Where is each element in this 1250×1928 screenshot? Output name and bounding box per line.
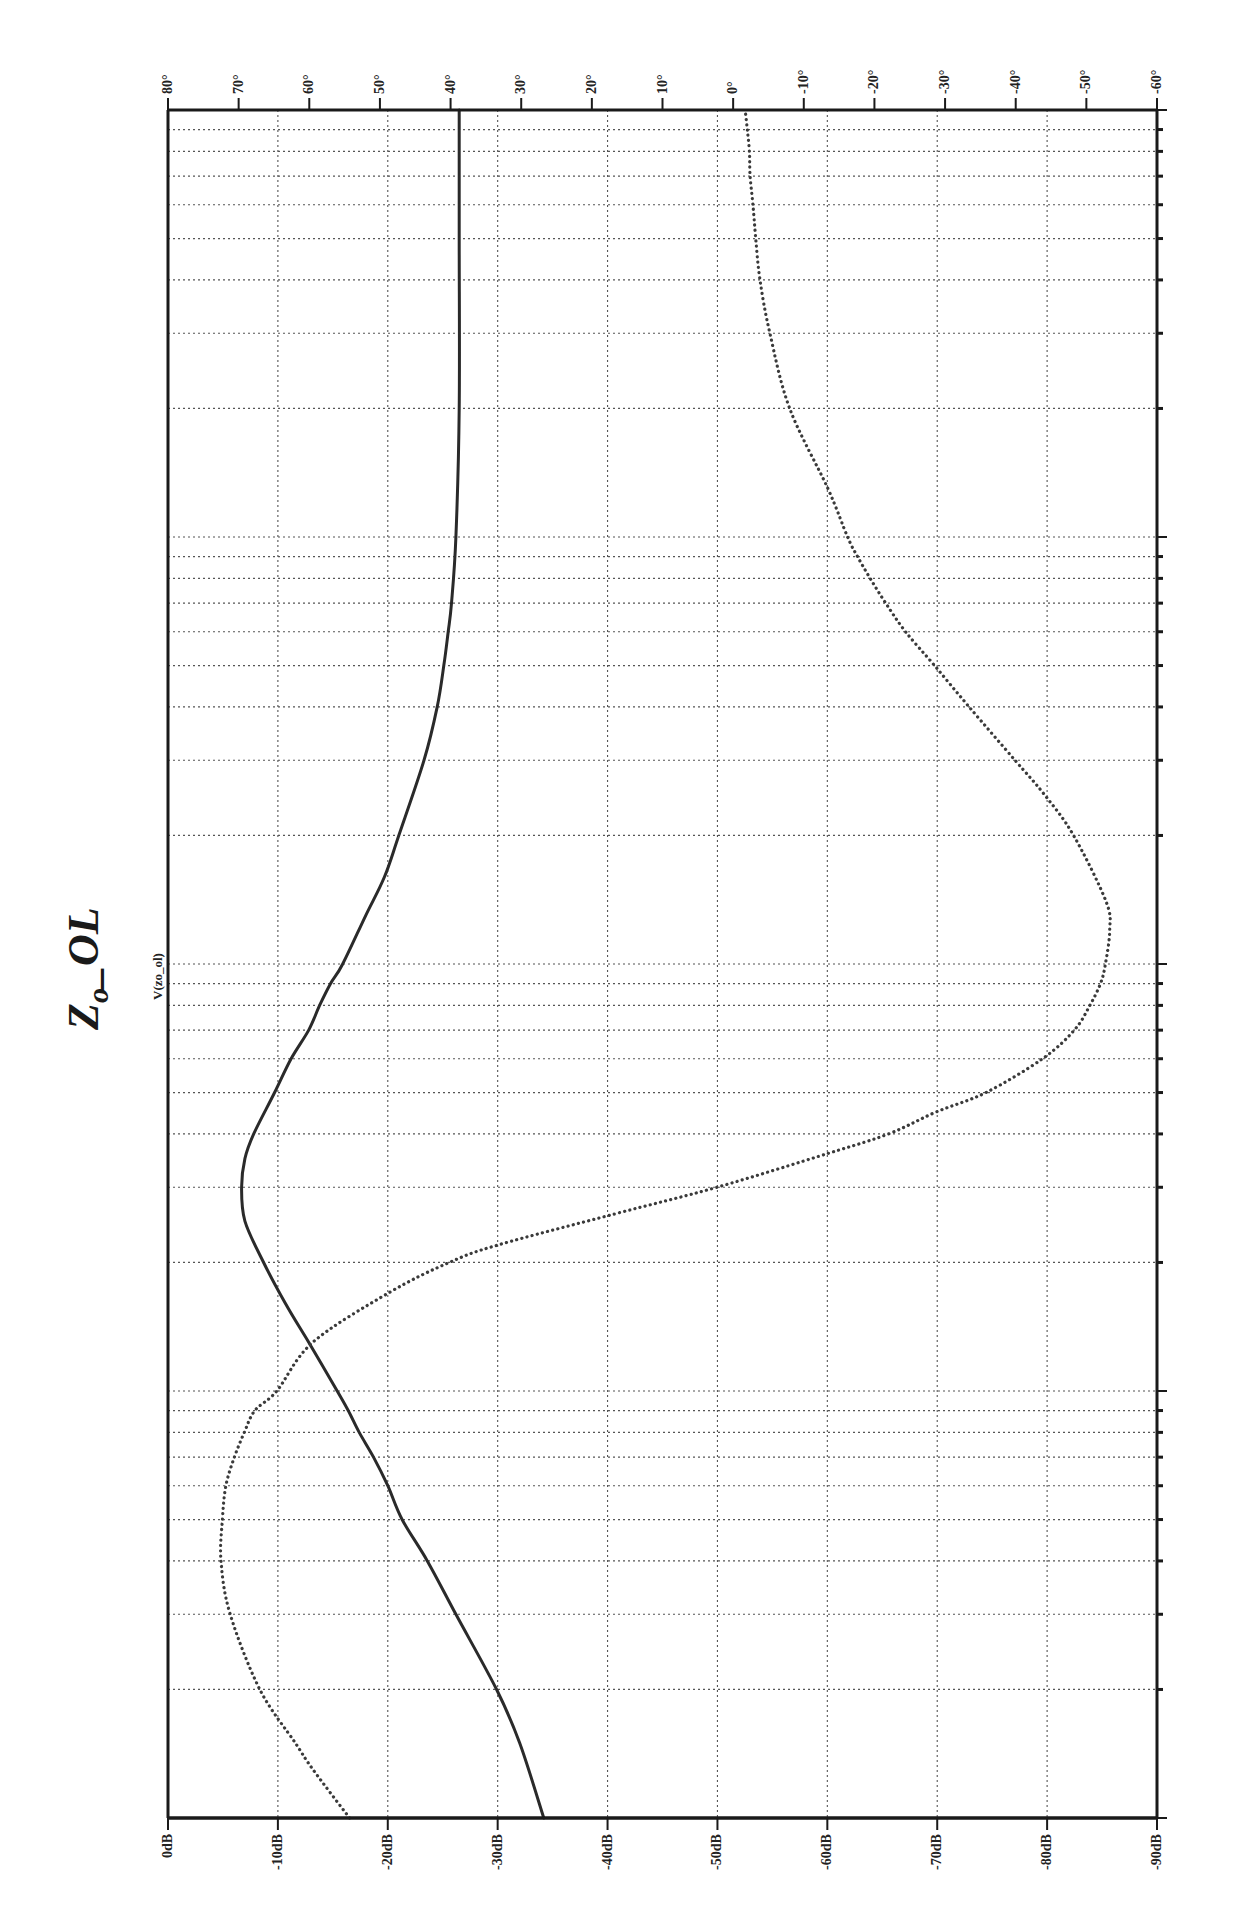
phase-tick-label: -10° bbox=[796, 70, 812, 94]
phase-tick-label: 0° bbox=[725, 81, 741, 94]
magnitude-tick-label: -20dB bbox=[380, 1834, 396, 1870]
phase-tick-label: -40° bbox=[1008, 70, 1024, 94]
phase-tick-label: 40° bbox=[443, 74, 459, 94]
bode-plot: Zo_OL V(zo_ol) 80°70°60°50°40°30°20°10°0… bbox=[0, 0, 1250, 1928]
magnitude-tick-label: -60dB bbox=[819, 1834, 835, 1870]
magnitude-tick-label: -80dB bbox=[1039, 1834, 1055, 1870]
phase-tick-label: 10° bbox=[655, 74, 671, 94]
phase-tick-label: -30° bbox=[937, 70, 953, 94]
magnitude-tick-label: -40dB bbox=[600, 1834, 616, 1870]
magnitude-tick-label: -30dB bbox=[490, 1834, 506, 1870]
magnitude-tick-label: -10dB bbox=[270, 1834, 286, 1870]
magnitude-tick-label: -70dB bbox=[929, 1834, 945, 1870]
phase-tick-label: -60° bbox=[1149, 70, 1165, 94]
magnitude-tick-label: 0dB bbox=[160, 1834, 176, 1858]
phase-tick-label: 50° bbox=[372, 74, 388, 94]
magnitude-tick-label: -50dB bbox=[709, 1834, 725, 1870]
phase-tick-label: -50° bbox=[1078, 70, 1094, 94]
phase-tick-label: 80° bbox=[160, 74, 176, 94]
phase-tick-label: 70° bbox=[231, 74, 247, 94]
grid-lines bbox=[168, 110, 1157, 1818]
magnitude-tick-label: -90dB bbox=[1149, 1834, 1165, 1870]
phase-tick-label: 60° bbox=[301, 74, 317, 94]
phase-tick-label: 20° bbox=[584, 74, 600, 94]
phase-tick-label: 30° bbox=[513, 74, 529, 94]
plot-frame bbox=[168, 98, 1167, 1830]
phase-tick-label: -20° bbox=[866, 70, 882, 94]
plot-area bbox=[0, 0, 1250, 1928]
